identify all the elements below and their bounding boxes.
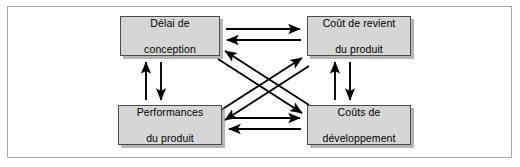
node-cout-de-revient-du-produit[interactable]: Coût de revientdu produit [307,16,411,56]
node-delai-label: Délai deconception [136,17,204,56]
node-perf-label: Performancesdu produit [129,106,212,145]
arrow-diagonal-b-downleft [225,66,309,120]
node-dev-label: Coûts dedéveloppement [314,106,403,145]
node-performances-du-produit[interactable]: Performancesdu produit [118,105,222,145]
node-cout-label: Coût de revientdu produit [315,17,404,56]
arrow-layer [0,0,520,167]
node-delai-de-conception[interactable]: Délai deconception [120,16,220,56]
arrow-diagonal-a-upleft [225,51,309,105]
node-couts-de-developpement[interactable]: Coûts dedéveloppement [307,105,411,145]
diagram-figure: Délai deconception Coût de revientdu pro… [0,0,520,167]
